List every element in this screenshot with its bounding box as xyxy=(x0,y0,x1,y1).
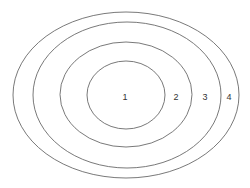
ring-1-label: 1 xyxy=(122,92,127,102)
ring-2-label: 2 xyxy=(173,92,178,102)
ring-4-label: 4 xyxy=(226,92,231,102)
ring-3-label: 3 xyxy=(202,92,207,102)
concentric-ellipse-diagram: 1 2 3 4 xyxy=(0,0,250,188)
